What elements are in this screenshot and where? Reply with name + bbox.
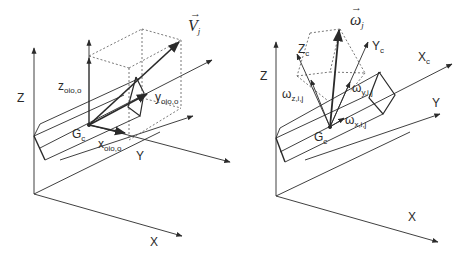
velocity-vector-label: V→j [188, 18, 200, 36]
origin-label-right: Gc [314, 131, 327, 146]
omega-x-label: ωx,i,j [345, 114, 366, 129]
xdot-label: xoio,o [98, 138, 121, 153]
origin-label: Gc [72, 128, 85, 143]
z-axis-label-right: Z [260, 70, 267, 82]
zc-axis-label: Zc [298, 43, 309, 58]
yc-axis-label: Yc [372, 40, 384, 55]
kinematics-figure: Z X Y Gc zoio,o yoio,o xoio,o V→j Z X Y … [0, 0, 464, 265]
ydot-label: yoio,o [155, 91, 178, 106]
xdot-arrow [89, 125, 125, 133]
y-axis-label-right: Y [432, 97, 440, 109]
omega-z-label: ωz,i,j [282, 88, 303, 103]
x-axis-label: X [150, 236, 158, 248]
z-axis-label: Z [17, 92, 24, 104]
omega-y-label: ωy,i,j [352, 82, 373, 97]
left-panel [34, 29, 230, 236]
zdot-label: zoio,o [58, 80, 81, 95]
x-axis-label-right: X [408, 211, 416, 223]
xc-axis-label: Xc [418, 51, 430, 66]
omega-vector-arrow [330, 30, 339, 127]
diagram-drawing [0, 0, 464, 265]
y-axis-label: Y [136, 150, 144, 162]
x-axis [34, 194, 182, 236]
omega-vector-label: ω→j [350, 12, 364, 30]
